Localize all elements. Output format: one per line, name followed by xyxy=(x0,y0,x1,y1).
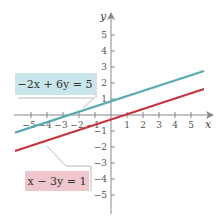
svg-text:−1: −1 xyxy=(94,126,107,136)
svg-text:4: 4 xyxy=(101,46,107,56)
svg-text:3: 3 xyxy=(156,120,162,130)
equation-label-teal: −2x + 6y = 5 xyxy=(15,73,95,95)
equation-text: x − 3y = 1 xyxy=(28,175,87,188)
svg-text:4: 4 xyxy=(172,120,178,130)
svg-text:−4: −4 xyxy=(94,174,108,184)
x-axis-label: x xyxy=(205,118,212,131)
svg-text:−2: −2 xyxy=(94,142,107,152)
svg-text:5: 5 xyxy=(188,120,194,130)
svg-text:−5: −5 xyxy=(94,190,108,200)
equation-text: −2x + 6y = 5 xyxy=(17,78,92,91)
svg-text:2: 2 xyxy=(101,78,107,88)
svg-text:2: 2 xyxy=(140,120,146,130)
y-axis-label: y xyxy=(99,10,107,23)
svg-text:−3: −3 xyxy=(94,158,108,168)
svg-text:−3: −3 xyxy=(54,120,68,130)
leader-line-eq1 xyxy=(18,98,94,108)
svg-text:3: 3 xyxy=(101,62,107,72)
equation-label-red: x − 3y = 1 xyxy=(25,171,89,191)
svg-text:1: 1 xyxy=(124,120,130,130)
svg-text:5: 5 xyxy=(101,30,107,40)
